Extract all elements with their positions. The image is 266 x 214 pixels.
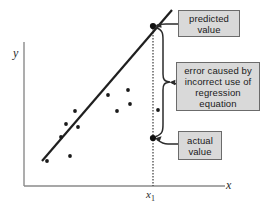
predicted-value-point [150, 23, 156, 29]
data-point [115, 109, 119, 113]
data-point [68, 154, 72, 158]
actual-value-line-1: actual [187, 135, 213, 146]
actual-value-line-2: value [188, 146, 211, 157]
x-axis-label: x [226, 178, 231, 193]
actual-value-callout: actual value [178, 131, 222, 160]
regression-error-line-3: regression [195, 87, 240, 98]
data-point [156, 108, 160, 112]
error-brace [156, 28, 170, 137]
regression-error-line-2: incorrect use of [185, 76, 252, 87]
regression-error-figure: y x x1 predicted value error caused by i… [0, 0, 266, 214]
data-point [64, 122, 68, 126]
error-arrowhead [170, 80, 176, 85]
regression-error-line-1: error caused by [184, 65, 252, 76]
data-point [126, 88, 130, 92]
x1-tick-subscript: 1 [151, 194, 155, 203]
predicted-value-line-2: value [197, 24, 220, 35]
data-point [59, 135, 63, 139]
actual-value-point [150, 135, 156, 141]
regression-error-callout: error caused by incorrect use of regress… [176, 62, 260, 111]
data-point [73, 109, 77, 113]
data-point [76, 125, 80, 129]
regression-error-line-4: equation [199, 98, 236, 109]
data-point [45, 159, 49, 163]
data-point [106, 93, 110, 97]
y-axis-label: y [13, 46, 18, 61]
predicted-value-line-1: predicted [189, 13, 229, 24]
scatter-points [45, 88, 160, 163]
predicted-value-callout: predicted value [178, 10, 240, 37]
data-point [128, 102, 132, 106]
x1-tick-label: x1 [146, 188, 155, 203]
